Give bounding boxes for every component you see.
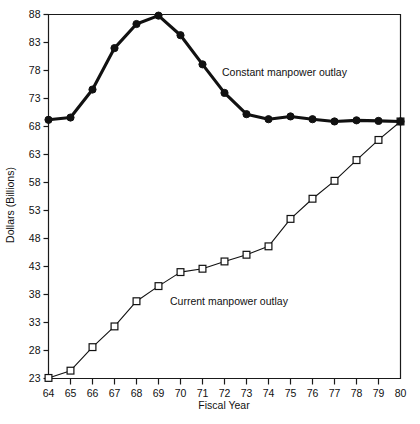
x-tick-label: 78 (351, 387, 363, 399)
data-point-marker (397, 118, 404, 125)
x-tick-label: 77 (329, 387, 341, 399)
data-point-marker (265, 243, 272, 250)
data-point-marker (243, 251, 250, 258)
data-point-marker (111, 45, 118, 52)
x-tick-label: 75 (285, 387, 297, 399)
data-point-marker (221, 89, 228, 96)
y-tick-label: 43 (29, 260, 41, 272)
data-point-marker (331, 177, 338, 184)
data-point-marker (67, 114, 74, 121)
x-axis-title: Fiscal Year (198, 399, 250, 411)
data-point-marker (331, 118, 338, 125)
chart-container: 2328333843485358636873788388 64656667686… (0, 0, 420, 424)
x-tick-label: 65 (65, 387, 77, 399)
x-tick-label: 80 (395, 387, 407, 399)
x-tick-label: 79 (373, 387, 385, 399)
x-tick-label: 64 (43, 387, 55, 399)
data-point-marker (177, 32, 184, 39)
data-point-marker (221, 258, 228, 265)
chart-background (0, 0, 420, 424)
x-tick-label: 72 (219, 387, 231, 399)
y-tick-label: 23 (29, 372, 41, 384)
data-point-marker (133, 298, 140, 305)
data-point-marker (243, 111, 250, 118)
y-tick-label: 73 (29, 92, 41, 104)
data-point-marker (155, 283, 162, 290)
x-tick-label: 70 (175, 387, 187, 399)
data-point-marker (177, 269, 184, 276)
x-tick-label: 73 (241, 387, 253, 399)
x-tick-label: 68 (131, 387, 143, 399)
data-point-marker (45, 116, 52, 123)
data-point-marker (287, 113, 294, 120)
data-point-marker (353, 157, 360, 164)
data-point-marker (375, 137, 382, 144)
line-chart: 2328333843485358636873788388 64656667686… (0, 0, 420, 424)
y-axis-title: Dollars (Billions) (4, 167, 16, 243)
x-axis-tick-labels: 6465666768697071727374757677787980 (43, 387, 407, 399)
data-point-marker (265, 116, 272, 123)
y-tick-label: 88 (29, 8, 41, 20)
y-tick-label: 38 (29, 288, 41, 300)
y-tick-label: 33 (29, 316, 41, 328)
series-label: Current manpower outlay (170, 295, 289, 307)
data-point-marker (67, 367, 74, 374)
data-point-marker (111, 323, 118, 330)
data-point-marker (133, 20, 140, 27)
x-tick-label: 69 (153, 387, 165, 399)
series-label: Constant manpower outlay (222, 66, 348, 78)
data-point-marker (199, 61, 206, 68)
y-tick-label: 53 (29, 204, 41, 216)
x-tick-label: 76 (307, 387, 319, 399)
data-point-marker (375, 117, 382, 124)
x-tick-label: 71 (197, 387, 209, 399)
data-point-marker (45, 375, 52, 382)
data-point-marker (353, 117, 360, 124)
data-point-marker (89, 344, 96, 351)
y-tick-label: 48 (29, 232, 41, 244)
data-point-marker (309, 195, 316, 202)
data-point-marker (199, 265, 206, 272)
data-point-marker (89, 86, 96, 93)
y-tick-label: 78 (29, 64, 41, 76)
y-tick-label: 83 (29, 36, 41, 48)
x-tick-label: 66 (87, 387, 99, 399)
y-tick-label: 58 (29, 176, 41, 188)
data-point-marker (309, 116, 316, 123)
y-tick-label: 63 (29, 148, 41, 160)
y-tick-label: 28 (29, 344, 41, 356)
x-tick-label: 74 (263, 387, 275, 399)
data-point-marker (287, 216, 294, 223)
y-tick-label: 68 (29, 120, 41, 132)
data-point-marker (155, 12, 162, 19)
x-tick-label: 67 (109, 387, 121, 399)
